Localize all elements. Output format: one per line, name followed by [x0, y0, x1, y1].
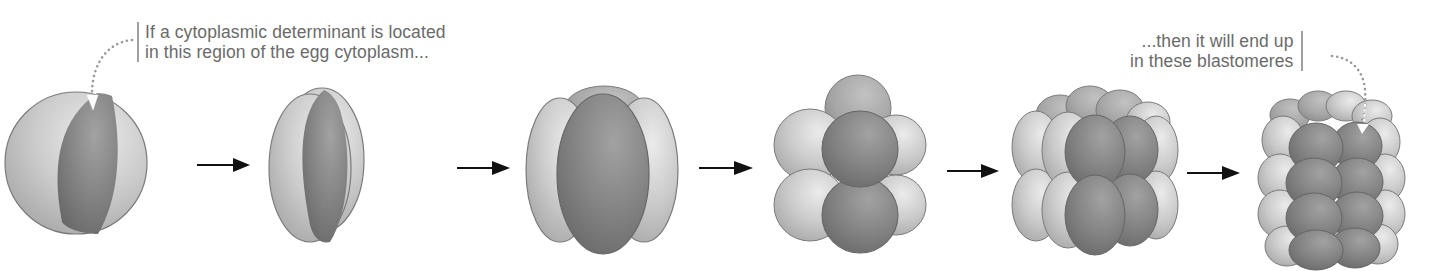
annotation-start-line-1: If a cytoplasmic determinant is located — [145, 22, 446, 42]
stage-32-cell — [1258, 91, 1405, 270]
stage-8-cell — [774, 75, 926, 253]
annotation-end-line-1: ...then it will end up — [1130, 31, 1293, 51]
determinant-blastomere — [822, 177, 898, 253]
right-arrow-icon — [947, 164, 999, 178]
right-arrow-icon — [197, 158, 250, 172]
determinant-blastomere — [557, 94, 649, 254]
annotation-end: ...then it will end up in these blastome… — [1130, 31, 1303, 71]
right-arrow-icon — [457, 161, 510, 175]
determinant-blastomere — [1065, 175, 1125, 255]
stage-4-cell — [526, 86, 678, 254]
stage-egg — [5, 92, 147, 234]
stage-2-cell — [269, 88, 364, 242]
annotation-end-line-2: in these blastomeres — [1130, 51, 1293, 71]
annotation-start: If a cytoplasmic determinant is located … — [137, 22, 446, 62]
determinant-blastomere — [1289, 230, 1343, 270]
stage-16-cell — [1012, 86, 1178, 255]
annotation-start-line-2: in this region of the egg cytoplasm... — [145, 42, 446, 62]
determinant-blastomere — [822, 111, 898, 187]
right-arrow-icon — [699, 161, 753, 175]
right-arrow-icon — [1187, 166, 1240, 180]
